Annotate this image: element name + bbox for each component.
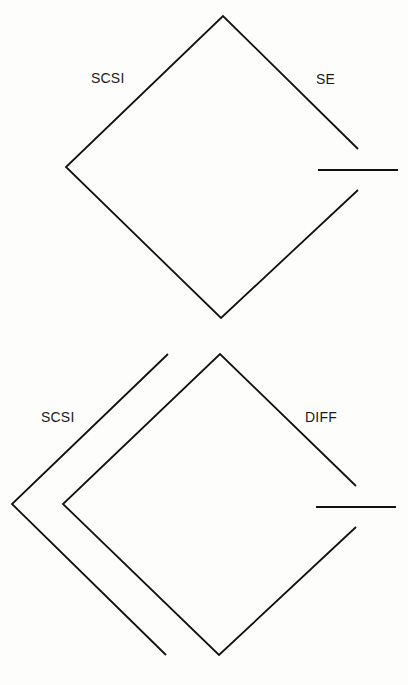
se-diagram — [66, 16, 398, 318]
diagram-canvas: SCSI SE SCSI DIFF — [0, 0, 408, 685]
diagram-svg — [0, 0, 408, 685]
diff-left-label: SCSI — [41, 410, 74, 424]
se-left-label: SCSI — [91, 71, 124, 85]
diff-diagram — [12, 354, 396, 655]
diff-diamond-outline — [63, 354, 356, 655]
se-right-label: SE — [316, 72, 335, 86]
diff-right-label: DIFF — [305, 410, 337, 424]
diff-outer-chevron — [12, 354, 168, 655]
se-diamond-outline — [66, 16, 358, 318]
